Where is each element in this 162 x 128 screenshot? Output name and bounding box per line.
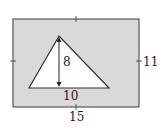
triangle-height-label: 8 bbox=[63, 55, 71, 69]
rectangle-width-label: 15 bbox=[69, 110, 84, 124]
triangle-base-label: 10 bbox=[63, 89, 78, 103]
shaded-region-diagram: 8 10 11 15 bbox=[0, 0, 162, 128]
rectangle-height-label: 11 bbox=[143, 55, 158, 69]
